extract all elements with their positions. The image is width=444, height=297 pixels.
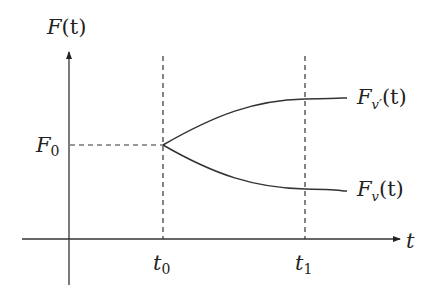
upper-curve-label: Fv′(t) (356, 85, 407, 112)
y-axis-label: F(t) (46, 15, 86, 39)
upper-curve (163, 98, 347, 145)
t0-label: t0 (153, 251, 170, 277)
diagram-canvas: F(t) F0 t t0 t1 Fv′(t) Fv(t) (0, 0, 444, 297)
f0-label: F0 (35, 133, 60, 159)
lower-curve (163, 145, 347, 191)
t1-label: t1 (295, 251, 312, 277)
x-axis-label: t (406, 229, 415, 253)
lower-curve-label: Fv(t) (356, 177, 404, 204)
